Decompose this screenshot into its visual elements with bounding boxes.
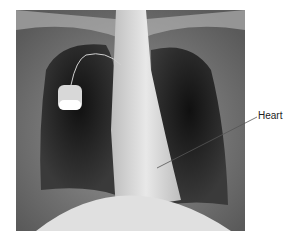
- heart-label: Heart: [258, 110, 282, 121]
- heart-leader-line: [0, 0, 295, 242]
